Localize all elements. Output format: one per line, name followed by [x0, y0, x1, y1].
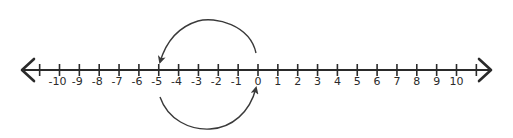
labels-group: -10-9-8-7-6-5-4-3-2-1012345678910	[49, 75, 464, 88]
tick-label: -1	[231, 75, 242, 88]
tick-label: -8	[92, 75, 103, 88]
tick-label: 5	[354, 75, 361, 88]
tick-label: 7	[393, 75, 400, 88]
number-line-diagram: -10-9-8-7-6-5-4-3-2-1012345678910	[0, 0, 513, 138]
tick-label: 2	[294, 75, 301, 88]
tick-label: 8	[413, 75, 420, 88]
tick-label: 4	[334, 75, 341, 88]
tick-label: 0	[255, 75, 262, 88]
tick-label: -2	[211, 75, 222, 88]
tick-label: -3	[191, 75, 202, 88]
tick-label: 3	[314, 75, 321, 88]
tick-label: -5	[151, 75, 162, 88]
tick-label: -7	[112, 75, 123, 88]
tick-label: 6	[374, 75, 381, 88]
number-line-svg: -10-9-8-7-6-5-4-3-2-1012345678910	[0, 0, 513, 138]
tick-label: -10	[49, 75, 67, 88]
top-arc-arrow	[160, 20, 256, 62]
tick-label: 1	[274, 75, 281, 88]
tick-label: -6	[131, 75, 142, 88]
tick-label: 10	[450, 75, 464, 88]
tick-label: -4	[171, 75, 182, 88]
tick-label: 9	[433, 75, 440, 88]
bottom-arc-arrow	[160, 88, 256, 129]
tick-label: -9	[72, 75, 83, 88]
